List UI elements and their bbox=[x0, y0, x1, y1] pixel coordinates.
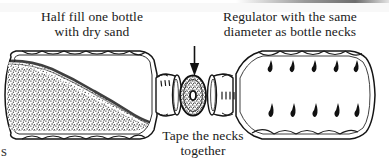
right-neck-mouth-inner bbox=[211, 79, 216, 111]
caption-tape-the-necks: Tape the necks together bbox=[148, 128, 258, 158]
caption-regulator: Regulator with the same diameter as bott… bbox=[196, 9, 384, 39]
regulator-hole bbox=[190, 91, 196, 100]
caption-right-line-2: diameter as bottle necks bbox=[196, 24, 384, 39]
page-edge-stray-character: s bbox=[1, 143, 7, 159]
pointer-arrow bbox=[190, 46, 199, 76]
caption-tape-line-1: Tape the necks bbox=[148, 128, 258, 143]
caption-half-fill-bottle: Half fill one bottle with dry sand bbox=[12, 9, 172, 39]
left-neck-mouth-inner bbox=[174, 79, 179, 111]
left-bottle-group bbox=[5, 51, 182, 139]
caption-tape-line-2: together bbox=[148, 143, 258, 158]
caption-left-line-2: with dry sand bbox=[12, 24, 172, 39]
scan-top-tint bbox=[0, 3, 389, 12]
right-bottle-group bbox=[208, 51, 376, 139]
left-bottle-neck bbox=[156, 74, 182, 116]
arrow-head bbox=[190, 63, 199, 76]
bottle-diagram-figure: Half fill one bottle with dry sand Regul… bbox=[0, 0, 389, 166]
right-bottle-neck bbox=[208, 74, 235, 116]
right-bottle-outline bbox=[236, 51, 375, 139]
regulator-group bbox=[180, 76, 206, 116]
